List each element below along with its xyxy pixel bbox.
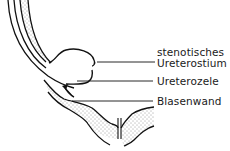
label-stenotic-line2: Ureterostium [157,58,227,69]
ureterocele-sac [49,49,95,84]
label-ureterocele: Ureterozele [157,76,219,87]
label-stenotic-line1: stenotisches [157,47,224,58]
bladder-wall-region [44,80,154,146]
ureter-lumen [8,0,74,88]
ureter-wall [20,0,51,63]
label-bladder-wall: Blasenwand [157,96,221,107]
leader-lines [72,62,155,101]
